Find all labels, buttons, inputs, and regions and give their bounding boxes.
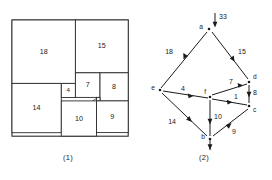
node-f-dot [209,96,212,99]
caption-panel-1: (1) [0,153,136,162]
panel-flow-network: 33 18 15 4 14 7 1 [136,0,272,180]
source-inflow-arrowhead [213,22,218,28]
flow-network-svg: 33 18 15 4 14 7 1 [136,0,272,150]
squared-square-svg: 18 15 14 4 7 8 1 10 9 [0,0,136,150]
figure-root: 18 15 14 4 7 8 1 10 9 [0,0,272,180]
edge-f-c-arrowhead [227,100,233,105]
node-d-dot [248,81,251,84]
square-14-label: 14 [33,103,41,112]
edge-a-e-label: 18 [165,48,173,55]
square-1 [97,97,101,101]
node-b-label: b [201,133,205,140]
square-7-label: 7 [86,80,90,89]
edge-f-d-label: 7 [229,78,233,85]
edge-a-d [212,32,248,79]
edge-f-c-label: 1 [234,93,238,100]
edge-e-b [162,93,207,136]
caption-panel-2: (2) [136,153,272,162]
square-8-label: 8 [112,82,116,91]
square-9-label: 9 [110,112,114,121]
sink-outflow-arrowhead [208,144,213,150]
edge-d-c-label: 8 [253,89,257,96]
edge-e-f-label: 4 [181,85,185,92]
node-a-label: a [199,23,203,30]
edge-b-c-label: 9 [232,128,236,135]
edge-f-b-label: 10 [214,113,222,120]
edge-d-c-arrowhead [247,92,252,98]
square-10-label: 10 [75,114,83,123]
edge-e-f-arrowhead [188,93,194,98]
node-e-label: e [151,84,155,91]
node-c-dot [248,105,251,108]
square-4-label: 4 [67,86,71,93]
node-b-dot [209,138,212,141]
source-flow-label: 33 [219,13,227,20]
square-15-label: 15 [98,41,106,50]
node-a-dot [208,28,211,31]
node-f-label: f [204,88,206,95]
node-d-label: d [253,73,257,80]
panel-squared-square: 18 15 14 4 7 8 1 10 9 [0,0,136,180]
edge-f-b-arrowhead [208,119,213,125]
node-e-dot [159,89,162,92]
node-c-label: c [253,106,257,113]
edge-e-b-label: 14 [168,118,176,125]
edge-a-e [161,32,207,88]
square-18-label: 18 [40,47,48,56]
edge-e-f [163,91,208,98]
edge-a-d-label: 15 [238,48,246,55]
